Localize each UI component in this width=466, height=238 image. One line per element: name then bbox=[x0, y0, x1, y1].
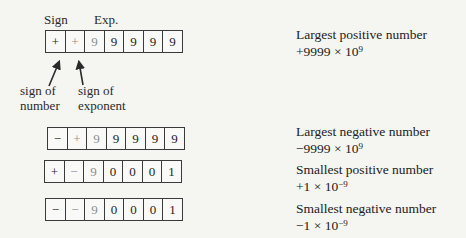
description-smallest-positive: Smallest positive number +1 × 10−9 bbox=[296, 161, 433, 195]
mantissa-digit-cell: 9 bbox=[104, 30, 125, 53]
value-base: +1 × 10 bbox=[296, 179, 338, 194]
sign-of-exponent-line1: sign of bbox=[78, 84, 126, 99]
description-value: −1 × 10−9 bbox=[296, 217, 436, 234]
exponent-sign-cell: − bbox=[64, 160, 85, 183]
floating-point-format-figure: Sign Exp. + + 9 9 9 9 9 sign of number s… bbox=[0, 0, 466, 238]
sign-of-number-line1: sign of bbox=[20, 84, 60, 99]
sign-of-number-label: sign of number bbox=[20, 84, 60, 113]
description-largest-positive: Largest positive number +9999 × 109 bbox=[296, 26, 427, 60]
mantissa-digit-cell: 9 bbox=[125, 127, 146, 150]
exponent-digit-cell: 9 bbox=[84, 30, 105, 53]
register-row-smallest-negative: − − 9 0 0 0 1 bbox=[45, 198, 183, 221]
value-exponent: −9 bbox=[338, 218, 348, 228]
mantissa-digit-cell: 1 bbox=[161, 160, 182, 183]
mantissa-digit-cell: 9 bbox=[162, 30, 183, 53]
mantissa-digit-cell: 9 bbox=[164, 127, 185, 150]
mantissa-digit-cell: 9 bbox=[143, 30, 164, 53]
mantissa-digit-cell: 0 bbox=[142, 160, 163, 183]
mantissa-digit-cell: 0 bbox=[123, 198, 144, 221]
sign-of-exponent-arrow bbox=[79, 62, 83, 85]
value-exponent: 9 bbox=[358, 141, 363, 151]
exponent-digit-cell: 9 bbox=[86, 127, 107, 150]
exponent-digit-cell: 9 bbox=[84, 198, 105, 221]
value-base: −1 × 10 bbox=[296, 218, 338, 233]
description-title: Largest negative number bbox=[296, 123, 430, 140]
number-sign-cell: − bbox=[45, 198, 66, 221]
mantissa-digit-cell: 0 bbox=[143, 198, 164, 221]
exponent-sign-cell: + bbox=[67, 127, 88, 150]
description-title: Smallest negative number bbox=[296, 200, 436, 217]
exponent-sign-cell: − bbox=[65, 198, 86, 221]
number-sign-cell: + bbox=[44, 160, 65, 183]
number-sign-cell: + bbox=[45, 30, 66, 53]
mantissa-digit-cell: 0 bbox=[103, 160, 124, 183]
description-largest-negative: Largest negative number −9999 × 109 bbox=[296, 123, 430, 157]
sign-of-exponent-label: sign of exponent bbox=[78, 84, 126, 113]
mantissa-digit-cell: 0 bbox=[104, 198, 125, 221]
mantissa-digit-cell: 9 bbox=[145, 127, 166, 150]
description-title: Smallest positive number bbox=[296, 161, 433, 178]
description-title: Largest positive number bbox=[296, 26, 427, 43]
register-row-largest-negative: − + 9 9 9 9 9 bbox=[47, 127, 185, 150]
exponent-digit-cell: 9 bbox=[83, 160, 104, 183]
description-value: +1 × 10−9 bbox=[296, 178, 433, 195]
sign-of-number-line2: number bbox=[20, 99, 60, 114]
value-base: +9999 × 10 bbox=[296, 44, 358, 59]
value-exponent: −9 bbox=[338, 179, 348, 189]
description-value: +9999 × 109 bbox=[296, 43, 427, 60]
mantissa-digit-cell: 9 bbox=[106, 127, 127, 150]
exp-field-label: Exp. bbox=[94, 12, 118, 28]
sign-field-label: Sign bbox=[44, 12, 68, 28]
exponent-sign-cell: + bbox=[65, 30, 86, 53]
sign-of-exponent-line2: exponent bbox=[78, 99, 126, 114]
description-value: −9999 × 109 bbox=[296, 140, 430, 157]
value-exponent: 9 bbox=[358, 44, 363, 54]
number-sign-cell: − bbox=[47, 127, 68, 150]
mantissa-digit-cell: 0 bbox=[122, 160, 143, 183]
mantissa-digit-cell: 9 bbox=[123, 30, 144, 53]
register-row-largest-positive: + + 9 9 9 9 9 bbox=[45, 30, 183, 53]
description-smallest-negative: Smallest negative number −1 × 10−9 bbox=[296, 200, 436, 234]
register-row-smallest-positive: + − 9 0 0 0 1 bbox=[44, 160, 182, 183]
mantissa-digit-cell: 1 bbox=[162, 198, 183, 221]
value-base: −9999 × 10 bbox=[296, 141, 358, 156]
